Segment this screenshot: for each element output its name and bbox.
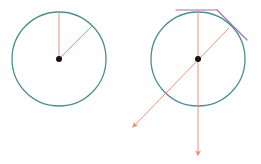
diagram-canvas: [0, 0, 261, 164]
figures-layer: [12, 10, 247, 155]
circle-with-tangents-and-arrows: [133, 10, 247, 155]
arrow-line: [133, 28, 229, 127]
radius-line: [59, 26, 92, 59]
center-point: [195, 56, 201, 62]
circle-with-radii: [12, 12, 106, 106]
center-point: [56, 56, 62, 62]
